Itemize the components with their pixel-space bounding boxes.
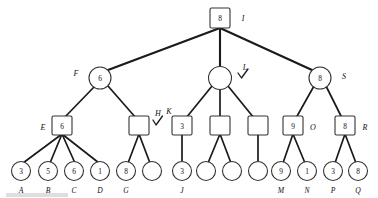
leaf-D-value: 1 (98, 167, 102, 176)
node-K-label: K (165, 107, 172, 116)
leaf-P[interactable]: 3 P (324, 162, 343, 195)
leaf-B-value: 5 (46, 167, 50, 176)
leaf-C-value: 6 (72, 167, 76, 176)
leaf-J[interactable]: 3 J (173, 162, 192, 195)
leaf-N-label: N (303, 186, 310, 195)
node-F-label: F (73, 69, 79, 78)
node-unlabeled-mid-2[interactable] (248, 116, 268, 135)
edges-level2-to-leaves (23, 134, 356, 163)
leaf-M-label: M (277, 186, 285, 195)
leaf-C-label: C (71, 186, 77, 195)
edge-I-S (220, 28, 312, 70)
edge-R-Q (345, 134, 356, 163)
leaf-D-label: D (96, 186, 103, 195)
node-O[interactable]: 9 O (283, 116, 316, 135)
leaf-M[interactable]: 9 M (272, 162, 291, 195)
leaf-Q-value: 8 (356, 167, 360, 176)
node-I-value: 8 (218, 14, 222, 23)
game-tree-svg: 8 I 6 F L 8 S 6 E H (0, 0, 378, 198)
leaf-B[interactable]: 5 B (39, 162, 58, 195)
leaf-G[interactable]: 8 G (117, 162, 136, 195)
edges-root-to-level1 (108, 28, 312, 70)
node-E-value: 6 (60, 122, 64, 131)
node-unlabeled-mid-1[interactable] (210, 116, 230, 135)
leaf-unlabeled-1-circle[interactable] (143, 162, 162, 181)
leaf-N[interactable]: 1 N (298, 162, 317, 195)
edge-H-G (128, 134, 139, 163)
edge-S-R (326, 86, 342, 118)
edge-L-M3 (228, 86, 254, 118)
leaf-N-value: 1 (305, 167, 309, 176)
edge-H-G2 (139, 134, 150, 163)
node-O-value: 9 (291, 122, 295, 131)
leaf-unlabeled-3-circle[interactable] (223, 162, 242, 181)
node-L-circle[interactable] (209, 67, 232, 90)
leaf-J-value: 3 (180, 167, 184, 176)
leaf-Q[interactable]: 8 Q (349, 162, 368, 195)
node-H-square[interactable] (129, 116, 149, 135)
node-O-label: O (310, 123, 316, 132)
node-S-label: S (342, 72, 346, 81)
node-F-value: 6 (98, 74, 102, 83)
leaf-G-value: 8 (124, 167, 128, 176)
leaf-C[interactable]: 6 C (65, 162, 84, 195)
leaf-unlabeled-3[interactable] (223, 162, 242, 181)
leaf-G-label: G (123, 186, 129, 195)
node-K[interactable]: 3 K (165, 107, 192, 136)
edge-R-P (335, 134, 345, 163)
edge-I-F (108, 28, 220, 70)
node-S-value: 8 (318, 74, 322, 83)
node-S[interactable]: 8 S (309, 67, 346, 89)
leaf-unlabeled-4-circle[interactable] (249, 162, 268, 181)
node-L[interactable]: L (209, 63, 249, 90)
leaf-unlabeled-1[interactable] (143, 162, 162, 181)
leaf-unlabeled-4[interactable] (249, 162, 268, 181)
game-tree-figure: 8 I 6 F L 8 S 6 E H (0, 0, 378, 198)
leaf-A-value: 3 (19, 167, 23, 176)
caption-strip (6, 193, 68, 197)
node-I[interactable]: 8 I (210, 8, 245, 28)
edge-E-D (62, 134, 99, 163)
node-unlabeled-mid-1-square[interactable] (210, 116, 230, 135)
leaf-A[interactable]: 3 A (12, 162, 31, 195)
leaf-unlabeled-2[interactable] (197, 162, 216, 181)
node-H[interactable]: H (129, 109, 163, 136)
edge-L-K (186, 86, 212, 118)
node-H-label: H (154, 109, 162, 118)
edge-M2-J2 (208, 134, 220, 163)
node-R[interactable]: 8 R (335, 116, 368, 135)
node-R-label: R (362, 123, 368, 132)
leaf-M-value: 9 (279, 167, 283, 176)
edge-S-O (296, 86, 314, 118)
edge-O-M (283, 134, 293, 163)
leaf-J-label: J (180, 186, 184, 195)
edges-level1-to-level2 (64, 86, 342, 118)
leaf-unlabeled-2-circle[interactable] (197, 162, 216, 181)
edge-F-E (64, 87, 94, 118)
leaf-P-label: P (330, 186, 336, 195)
node-F[interactable]: 6 F (73, 67, 111, 89)
node-R-value: 8 (343, 122, 347, 131)
leaf-D[interactable]: 1 D (91, 162, 110, 195)
edge-M2-J3 (220, 134, 231, 163)
edge-O-N (293, 134, 305, 163)
node-E-label: E (40, 123, 46, 132)
leaf-P-value: 3 (331, 167, 335, 176)
node-K-value: 3 (180, 122, 184, 131)
leaf-Q-label: Q (355, 186, 361, 195)
node-unlabeled-mid-2-square[interactable] (248, 116, 268, 135)
edge-F-H (108, 86, 136, 118)
node-E[interactable]: 6 E (40, 116, 72, 135)
node-I-label: I (241, 14, 245, 23)
